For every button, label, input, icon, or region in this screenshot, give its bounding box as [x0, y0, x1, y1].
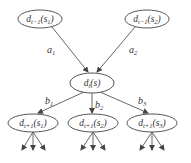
node-d-t-plus-1-s3: dt+1(s3): [127, 114, 177, 132]
fanout-next1: [22, 132, 45, 150]
edge-label-a1: a1: [47, 44, 55, 56]
fanout-next2: [81, 132, 105, 150]
node-d-t-plus-1-s2: dt+1(s2): [68, 114, 118, 132]
edge-label-b1: b1: [45, 95, 53, 107]
node-d-t-plus-1-s1: dt+1(s1): [8, 114, 58, 132]
node-d-t-minus-1-s2: dt−1(s2): [125, 10, 169, 28]
svg-text:dt−1(s2): dt−1(s2): [133, 14, 161, 25]
fanout-next3: [140, 132, 164, 150]
state-transition-diagram: a1 a2 b1 b2 b3 dt−1(s1) dt−1(s2) dt(s) d…: [0, 0, 191, 163]
edge-label-a2: a2: [129, 44, 138, 56]
edge-label-b3: b3: [138, 95, 147, 107]
node-d-t-minus-1-s1: dt−1(s1): [18, 10, 62, 28]
node-d-t-s: dt(s): [70, 73, 114, 93]
svg-text:dt+1(s3): dt+1(s3): [138, 118, 166, 129]
svg-text:dt(s): dt(s): [84, 78, 101, 89]
svg-text:dt−1(s1): dt−1(s1): [26, 14, 54, 25]
edge-label-b2: b2: [95, 99, 104, 111]
svg-text:dt+1(s2): dt+1(s2): [79, 118, 107, 129]
edge-a1: [52, 27, 88, 72]
svg-text:dt+1(s1): dt+1(s1): [19, 118, 47, 129]
